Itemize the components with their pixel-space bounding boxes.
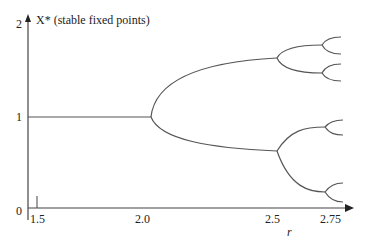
y-tick-1: 1 — [16, 110, 22, 124]
y-axis-arrow-icon — [25, 14, 31, 22]
y-axis-label: X* (stable fixed points) — [36, 13, 150, 27]
x-axis-label: r — [287, 225, 292, 239]
y-tick-0: 0 — [16, 204, 22, 218]
x-tick-1-5: 1.5 — [30, 212, 45, 226]
bifurcation-diagram: X* (stable fixed points) 0 1 2 1.5 2.0 2… — [0, 0, 370, 249]
x-axis-arrow-icon — [345, 204, 354, 212]
x-tick-2-5: 2.5 — [265, 212, 280, 226]
x-tick-2-0: 2.0 — [135, 212, 150, 226]
bifurcation-branches — [28, 37, 343, 202]
y-tick-2: 2 — [16, 17, 22, 31]
x-tick-2-75: 2.75 — [320, 212, 341, 226]
